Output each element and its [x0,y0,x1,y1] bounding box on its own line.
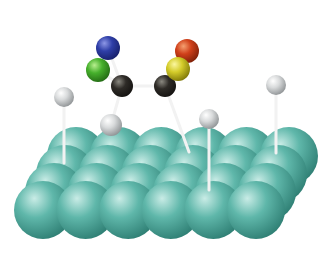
hydrogen-atom [199,109,219,129]
hydrogen-atom [266,75,286,95]
metal-surface-slab [14,127,318,239]
molecule-on-surface-diagram [0,0,330,258]
hydrogen-atom [100,114,122,136]
nitrogen-atom [96,36,120,60]
sulfur-atom [166,57,190,81]
diagram-stage: Adsorbed molecule on metal surface slab [0,0,330,258]
carbon-atom [111,75,133,97]
surface-atom [227,181,285,239]
hydrogen-atom [54,87,74,107]
chlorine-atom [86,58,110,82]
molecule-atoms [54,36,286,136]
